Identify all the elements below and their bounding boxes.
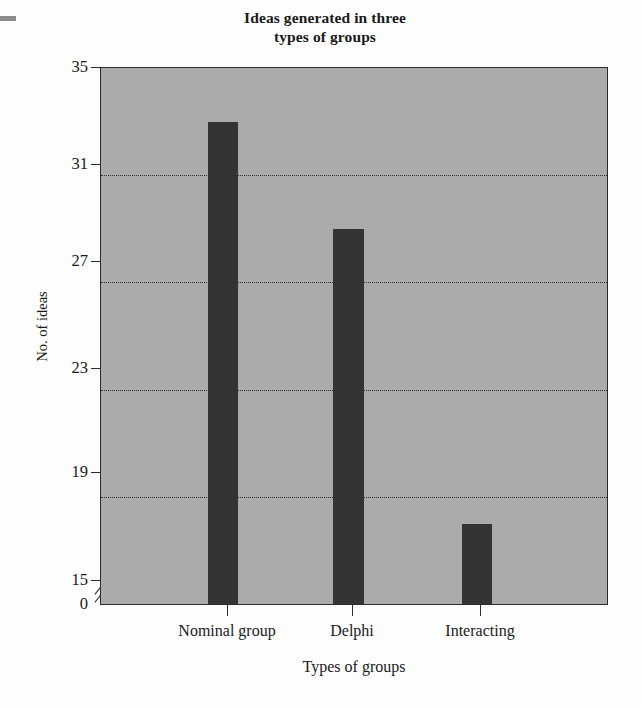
x-tick-label-interacting: Interacting bbox=[390, 622, 570, 640]
y-axis-title: No. of ideas bbox=[34, 267, 51, 387]
bar-delphi[interactable] bbox=[333, 229, 364, 604]
y-tick-mark-31 bbox=[91, 164, 100, 165]
y-tick-label-31: 31 bbox=[42, 156, 88, 172]
scan-artifact bbox=[0, 16, 16, 21]
x-axis-title: Types of groups bbox=[100, 658, 608, 676]
y-tick-mark-23 bbox=[91, 368, 100, 369]
bar-nominal-group[interactable] bbox=[208, 122, 238, 604]
bar-interacting[interactable] bbox=[462, 524, 492, 604]
chart-title-line-2: types of groups bbox=[150, 27, 500, 46]
y-tick-label-0: 0 bbox=[42, 596, 88, 612]
y-tick-mark-35 bbox=[91, 67, 100, 68]
y-tick-mark-27 bbox=[91, 261, 100, 262]
plot-area bbox=[100, 67, 608, 605]
x-tick-mark-nominal-group bbox=[227, 605, 228, 616]
chart-title: Ideas generated in three types of groups bbox=[150, 8, 500, 46]
y-tick-label-15: 15 bbox=[42, 572, 88, 588]
gridline-31 bbox=[101, 175, 607, 176]
chart-page: Ideas generated in three types of groups… bbox=[0, 0, 641, 708]
y-tick-mark-19 bbox=[91, 472, 100, 473]
chart-title-line-1: Ideas generated in three bbox=[150, 8, 500, 27]
x-tick-mark-delphi bbox=[352, 605, 353, 616]
y-tick-label-35: 35 bbox=[42, 59, 88, 75]
x-tick-mark-interacting bbox=[480, 605, 481, 616]
y-tick-label-19: 19 bbox=[42, 464, 88, 480]
